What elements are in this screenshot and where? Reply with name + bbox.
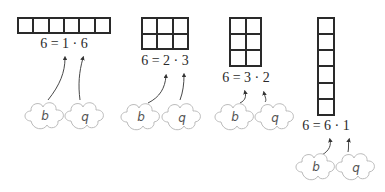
grid-cell: [95, 18, 110, 33]
grid-cell: [173, 18, 188, 34]
grid-cell: [318, 18, 334, 34]
equation-4: 6 = 6 · 1: [302, 118, 350, 134]
grid-cell: [246, 18, 262, 34]
grid-cell: [318, 34, 334, 50]
grid-6x1: [317, 17, 335, 116]
cloud-label-b: b: [231, 110, 239, 124]
grid-cell: [246, 34, 262, 50]
grid-3x2: [229, 17, 262, 67]
grid-cell: [318, 83, 334, 99]
grid-cell: [142, 34, 157, 50]
grid-cell: [246, 50, 262, 66]
equation-1: 6 = 1 · 6: [40, 36, 88, 52]
cloud-label-b: b: [41, 109, 49, 123]
grid-cell: [318, 50, 334, 66]
grid-1x6: [17, 17, 111, 34]
grid-cell: [230, 18, 246, 34]
grid-cell: [79, 18, 94, 33]
grid-cell: [230, 34, 246, 50]
grid-cell: [318, 99, 334, 115]
grid-cell: [157, 34, 172, 50]
cloud-label-b: b: [137, 110, 145, 124]
cloud-label-q: q: [271, 111, 279, 125]
grid-cell: [18, 18, 33, 33]
grid-2x3: [141, 17, 189, 50]
cloud-label-q: q: [81, 110, 89, 124]
grid-cell: [318, 66, 334, 82]
cloud-label-q: q: [352, 161, 360, 175]
equation-3: 6 = 3 · 2: [222, 70, 270, 86]
grid-cell: [64, 18, 79, 33]
equation-2: 6 = 2 · 3: [141, 53, 189, 69]
cloud-label-b: b: [312, 160, 320, 174]
cloud-label-q: q: [178, 111, 186, 125]
grid-cell: [49, 18, 64, 33]
grid-cell: [230, 50, 246, 66]
grid-cell: [157, 18, 172, 34]
grid-cell: [33, 18, 48, 33]
grid-cell: [142, 18, 157, 34]
grid-cell: [173, 34, 188, 50]
